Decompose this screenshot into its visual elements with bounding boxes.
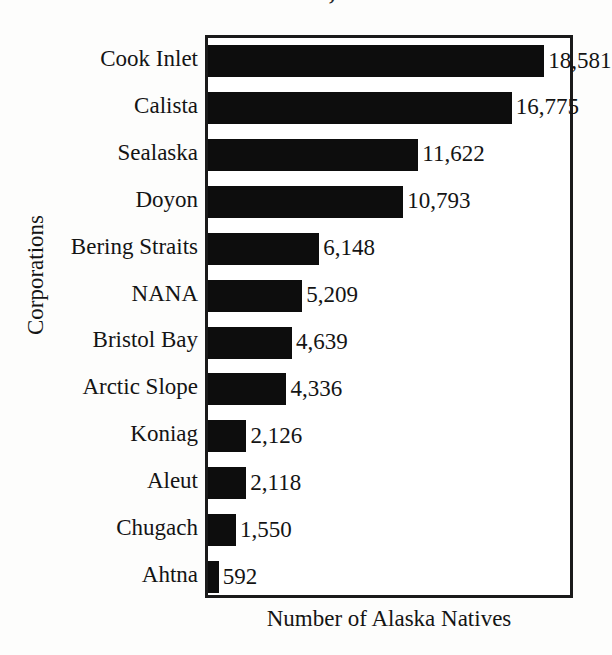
bar bbox=[208, 92, 512, 124]
category-label-row: Bering Straits bbox=[55, 223, 198, 270]
bar bbox=[208, 280, 302, 312]
category-label: Ahtna bbox=[142, 563, 198, 586]
bar-value-label: 10,793 bbox=[403, 185, 470, 217]
bar-row: 5,209 bbox=[208, 273, 570, 320]
bar bbox=[208, 327, 292, 359]
bar bbox=[208, 233, 319, 265]
category-label: Cook Inlet bbox=[100, 47, 198, 70]
plot-frame: 18,58116,77511,62210,7936,1485,2094,6394… bbox=[205, 35, 573, 598]
y-axis-title: Corporations bbox=[23, 195, 49, 355]
category-label-row: Sealaska bbox=[55, 129, 198, 176]
bar-value-label: 4,336 bbox=[286, 372, 342, 404]
bar-value-label: 2,118 bbox=[246, 466, 301, 498]
bar-row: 4,639 bbox=[208, 320, 570, 367]
bar-row: 4,336 bbox=[208, 366, 570, 413]
bar bbox=[208, 139, 418, 171]
category-label-row: Chugach bbox=[55, 504, 198, 551]
category-label-row: Calista bbox=[55, 82, 198, 129]
category-label: Sealaska bbox=[118, 141, 198, 164]
bar-value-label: 11,622 bbox=[418, 138, 484, 170]
category-label: Doyon bbox=[135, 188, 198, 211]
bar-row: 16,775 bbox=[208, 85, 570, 132]
bar-value-label: 4,639 bbox=[292, 326, 348, 358]
bar-value-label: 592 bbox=[219, 560, 258, 592]
bar-value-label: 18,581 bbox=[544, 44, 611, 76]
bar-row: 11,622 bbox=[208, 132, 570, 179]
category-label: Bering Straits bbox=[71, 235, 198, 258]
bar-value-label: 2,126 bbox=[246, 419, 302, 451]
bar-row: 6,148 bbox=[208, 226, 570, 273]
bar-row: 1,550 bbox=[208, 507, 570, 554]
bar bbox=[208, 467, 246, 499]
category-label-row: Aleut bbox=[55, 457, 198, 504]
bar-row: 2,126 bbox=[208, 413, 570, 460]
category-label-column: Cook InletCalistaSealaskaDoyonBering Str… bbox=[55, 35, 198, 598]
bar-row: 18,581 bbox=[208, 38, 570, 85]
x-axis-title: Number of Alaska Natives bbox=[205, 606, 573, 632]
category-label-row: Arctic Slope bbox=[55, 363, 198, 410]
category-label-row: Ahtna bbox=[55, 551, 198, 598]
category-label-row: Koniag bbox=[55, 410, 198, 457]
bar-row: 10,793 bbox=[208, 179, 570, 226]
category-label: NANA bbox=[132, 282, 198, 305]
bar bbox=[208, 373, 286, 405]
category-label: Bristol Bay bbox=[93, 328, 198, 351]
category-label-row: Bristol Bay bbox=[55, 317, 198, 364]
category-label: Chugach bbox=[116, 516, 198, 539]
bar bbox=[208, 186, 403, 218]
category-label: Koniag bbox=[130, 422, 198, 445]
bar-value-label: 16,775 bbox=[512, 91, 579, 123]
bar bbox=[208, 561, 219, 593]
category-label: Calista bbox=[134, 94, 198, 117]
category-label-row: Doyon bbox=[55, 176, 198, 223]
plot-area: 18,58116,77511,62210,7936,1485,2094,6394… bbox=[208, 38, 570, 595]
bar-value-label: 1,550 bbox=[236, 513, 292, 545]
category-label-row: Cook Inlet bbox=[55, 35, 198, 82]
bar-value-label: 5,209 bbox=[302, 279, 358, 311]
bar-row: 2,118 bbox=[208, 460, 570, 507]
bar-value-label: 6,148 bbox=[319, 232, 375, 264]
category-label: Arctic Slope bbox=[82, 375, 198, 398]
bar bbox=[208, 420, 246, 452]
bar bbox=[208, 514, 236, 546]
category-label: Aleut bbox=[147, 469, 198, 492]
category-label-row: NANA bbox=[55, 270, 198, 317]
bar-row: 592 bbox=[208, 554, 570, 601]
bar bbox=[208, 45, 544, 77]
